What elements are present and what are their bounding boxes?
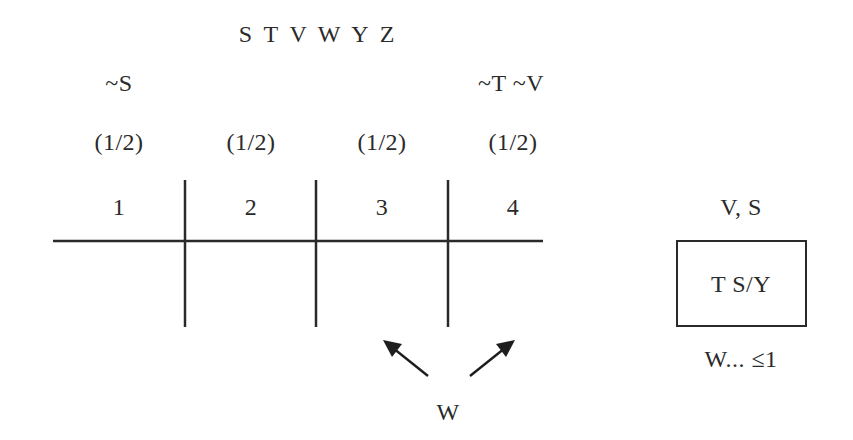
arrows-label: W <box>436 400 459 424</box>
slot-grid <box>0 0 853 440</box>
arrow-right-icon <box>470 340 515 376</box>
side-box-content: T S/Y <box>711 272 771 296</box>
arrow-left-icon <box>383 340 428 376</box>
side-box-above-label: V, S <box>720 195 762 219</box>
side-box-below-label: W... ≤1 <box>704 347 777 371</box>
